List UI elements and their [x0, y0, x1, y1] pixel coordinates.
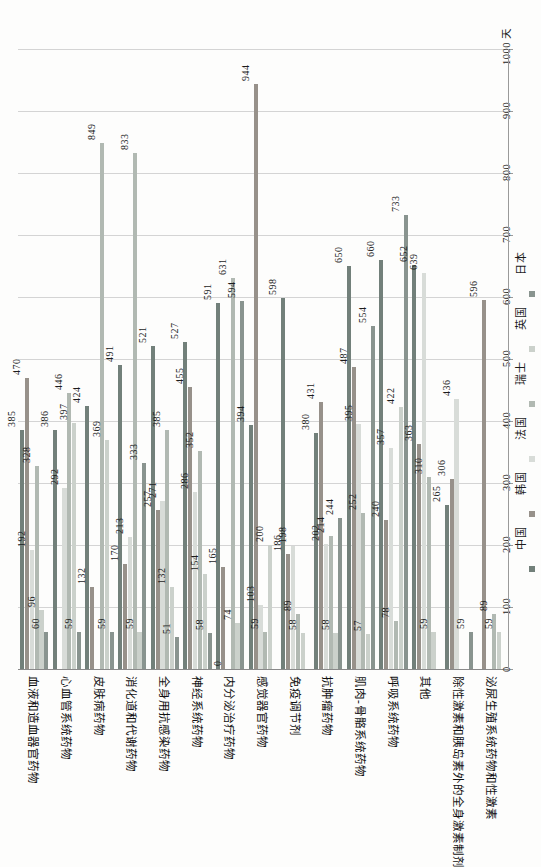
bar-value-label: 733: [391, 195, 401, 212]
gridline: [18, 49, 508, 50]
bar: [72, 423, 76, 669]
bar-value-label: 59: [456, 618, 466, 629]
legend-swatch-icon: [529, 291, 535, 297]
bar-value-label: 385: [7, 411, 17, 428]
axis-tick-label: 700: [501, 226, 512, 243]
bar: [44, 632, 48, 669]
bar: [361, 513, 365, 669]
bar: [445, 505, 449, 669]
bar: [333, 633, 337, 669]
category-label: 除性激素和胰岛素外的全身激素制剂: [452, 676, 464, 867]
bar-value-label: 132: [77, 568, 87, 585]
bar-value-label: 51: [162, 623, 172, 634]
bar-value-label: 527: [170, 323, 180, 340]
bar-value-label: 170: [110, 544, 120, 561]
bar-value-label: 446: [54, 373, 64, 390]
bar-value-label: 154: [190, 554, 200, 571]
bar-value-label: 310: [414, 457, 424, 474]
bar-value-label: 198: [278, 527, 288, 544]
legend-swatch-icon: [529, 511, 535, 517]
bar: [497, 632, 501, 669]
axis-line: [508, 49, 509, 670]
category-label: 神经系统药物: [191, 676, 203, 748]
bar-value-label: 74: [223, 609, 233, 620]
bar-value-label: 357: [376, 428, 386, 445]
bar-value-label: 369: [92, 421, 102, 438]
bar: [137, 632, 141, 669]
category-label: 抗肿瘤药物: [321, 676, 333, 736]
bar-value-label: 352: [185, 431, 195, 448]
bar-value-label: 78: [381, 607, 391, 618]
axis-tick-label: 400: [501, 412, 512, 429]
legend-item-label: 英国: [515, 306, 527, 330]
bar-value-label: 487: [339, 348, 349, 365]
axis-tick-label: 300: [501, 474, 512, 491]
bar-value-label: 89: [283, 600, 293, 611]
legend-swatch-icon: [529, 346, 535, 352]
category-label: 呼吸系统药物: [387, 676, 399, 748]
bar: [100, 143, 104, 669]
bar: [268, 545, 272, 669]
bar-value-label: 286: [180, 472, 190, 489]
bar: [128, 537, 132, 669]
bar: [281, 298, 285, 669]
bar-value-label: 849: [87, 123, 97, 140]
category-label: 全身用抗感染药物: [158, 676, 170, 772]
gridline: [18, 235, 508, 236]
bar: [394, 621, 398, 669]
legend-swatch-icon: [529, 401, 535, 407]
bar-value-label: 213: [115, 517, 125, 534]
category-label: 泌尿生殖系统药物和性激素: [485, 676, 497, 820]
bar: [263, 632, 267, 669]
bar: [151, 346, 155, 669]
bar: [25, 378, 29, 669]
bar: [371, 326, 375, 670]
bar-value-label: 431: [306, 382, 316, 399]
axis-tick-label: 100: [501, 598, 512, 615]
bar: [258, 605, 262, 669]
bar: [324, 544, 328, 669]
bar-value-label: 397: [59, 403, 69, 420]
axis-tick-label: 200: [501, 536, 512, 553]
bar-value-label: 422: [386, 388, 396, 405]
bar-value-label: 58: [321, 619, 331, 630]
bar: [469, 632, 473, 669]
bar-value-label: 60: [31, 618, 41, 629]
bar: [235, 623, 239, 669]
bar: [366, 634, 370, 669]
bar-value-label: 59: [250, 618, 260, 629]
bar-value-label: 292: [50, 469, 60, 486]
category-label: 血液和造血器官药物: [27, 676, 39, 784]
bar-value-label: 598: [268, 279, 278, 296]
bar-value-label: 59: [484, 618, 494, 629]
gridline: [18, 359, 508, 360]
gridline: [18, 483, 508, 484]
bar-value-label: 306: [437, 460, 447, 477]
bar-value-label: 200: [255, 526, 265, 543]
baseline-axis: [18, 669, 508, 670]
bar-value-label: 89: [479, 600, 489, 611]
bar-value-label: 59: [125, 618, 135, 629]
bar: [329, 536, 333, 669]
bar: [431, 632, 435, 669]
bar-value-label: 455: [175, 367, 185, 384]
bar: [450, 479, 454, 669]
bar-value-label: 594: [227, 281, 237, 298]
category-label: 心血管系统药物: [60, 676, 72, 760]
bar: [156, 510, 160, 669]
bar-value-label: 271: [148, 482, 158, 499]
bar-value-label: 385: [152, 411, 162, 428]
category-label: 内分泌治疗药物: [223, 676, 235, 760]
bar: [384, 520, 388, 669]
category-label: 感觉器官药物: [256, 676, 268, 748]
bar-value-label: 436: [442, 379, 452, 396]
bar: [389, 448, 393, 669]
bar-value-label: 59: [64, 618, 74, 629]
bar-value-label: 103: [246, 586, 256, 603]
bar: [53, 430, 57, 669]
bar: [417, 444, 421, 669]
bar-value-label: 380: [301, 414, 311, 431]
bar: [175, 637, 179, 669]
legend-item-label: 日本: [515, 251, 527, 275]
bar: [62, 488, 66, 669]
